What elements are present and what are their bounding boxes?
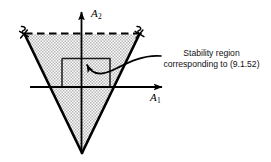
annotation-caption: Stability region corresponding to (9.1.5… — [152, 48, 271, 69]
stability-region-figure: A2 A1 Stability region corresponding to … — [0, 0, 271, 162]
axis-label-a1-text: A — [150, 91, 157, 103]
axis-label-a2-subscript: 2 — [98, 12, 102, 21]
open-endpoint-mark-left — [20, 26, 29, 38]
annotation-line-2: corresponding to (9.1.52) — [152, 59, 271, 70]
axis-label-a1-subscript: 1 — [157, 96, 161, 105]
figure-canvas — [0, 0, 271, 162]
axis-label-a1: A1 — [150, 91, 161, 105]
axis-label-a2: A2 — [91, 7, 102, 21]
axis-label-a2-text: A — [91, 7, 98, 19]
annotation-line-1: Stability region — [152, 48, 271, 59]
